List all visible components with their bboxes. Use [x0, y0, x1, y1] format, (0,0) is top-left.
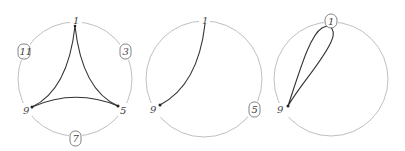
label-9: 9 — [150, 104, 157, 115]
panel-middle: 1 9 5 — [146, 15, 262, 137]
edge-1-5 — [75, 26, 118, 106]
outer-circle — [274, 22, 388, 136]
label-9: 9 — [23, 105, 30, 116]
label-7: 7 — [73, 133, 80, 144]
edge-1-9 — [32, 26, 75, 107]
loop-9-1 — [288, 26, 333, 106]
label-1: 1 — [73, 15, 79, 26]
outer-circle — [146, 21, 262, 137]
label-3: 3 — [123, 46, 129, 57]
edge-1-9 — [160, 24, 205, 105]
label-9: 9 — [277, 104, 284, 115]
label-1: 1 — [328, 16, 334, 27]
diagram-canvas: 1 11 3 9 5 7 1 9 5 1 9 — [0, 0, 405, 151]
label-5: 5 — [120, 105, 126, 116]
label-1: 1 — [202, 15, 208, 26]
label-5: 5 — [252, 104, 258, 115]
panel-left: 1 11 3 9 5 7 — [16, 15, 132, 146]
outer-circle — [18, 22, 132, 136]
label-11: 11 — [20, 46, 33, 57]
panel-right: 1 9 — [274, 13, 388, 136]
